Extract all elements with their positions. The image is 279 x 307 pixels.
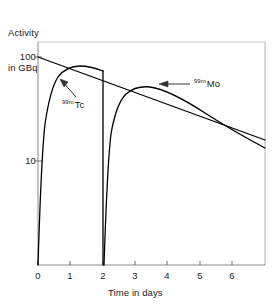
chart-figure: Activity in GBq 100 10 0 1 2 3 4 5 6 Tim… [0,0,279,307]
series-line-mo [38,57,265,140]
x-ticks [38,261,232,265]
series-line-tc-cycle2 [104,87,265,265]
annotation-arrow-mo-head [159,81,168,87]
series-line-tc-cycle1 [38,66,103,265]
chart-plot-area [0,0,279,307]
